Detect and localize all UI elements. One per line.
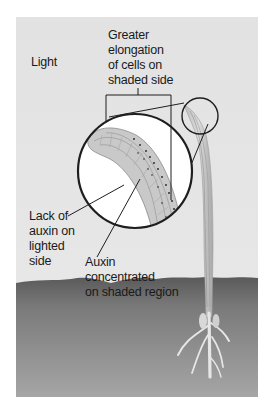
elongation-label: Greater elongation of cells on shaded si… — [108, 28, 173, 88]
light-label: Light — [31, 55, 57, 70]
auxin-concentrated-label: Auxin concentrated on shaded region — [85, 255, 178, 300]
phototropism-diagram: Light Greater elongation of cells on sha… — [16, 17, 258, 397]
lack-auxin-label: Lack of auxin on lighted side — [29, 209, 75, 269]
